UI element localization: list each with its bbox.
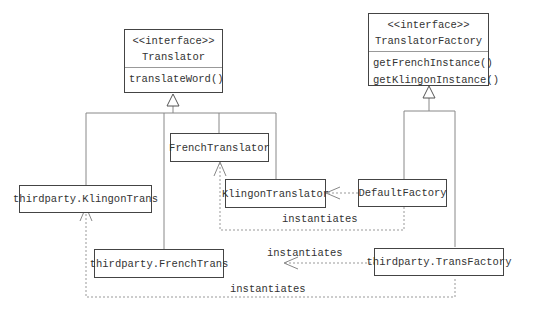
class-default-factory: DefaultFactory — [358, 179, 447, 207]
class-name: thirdparty.KlingonTrans — [13, 193, 158, 205]
label-trans-factory-instantiates-klingon: instantiates — [230, 283, 306, 295]
class-klingon-translator: KlingonTranslator — [225, 179, 326, 208]
operation: getKlingonInstance() — [373, 72, 484, 89]
stereotype-label: <<interface>> — [125, 33, 222, 49]
interface-name: TranslatorFactory — [369, 33, 488, 49]
class-name: thirdparty.FrenchTrans — [90, 258, 229, 270]
interface-header: <<interface>> TranslatorFactory — [369, 14, 488, 52]
class-name: DefaultFactory — [358, 187, 446, 199]
operations-compartment: translateWord() — [125, 68, 222, 91]
stereotype-label: <<interface>> — [369, 17, 488, 33]
operation: getFrenchInstance() — [373, 55, 484, 72]
class-name: KlingonTranslator — [222, 188, 329, 200]
realization-translator-factory — [404, 86, 455, 247]
interface-translator: <<interface>> Translator translateWord() — [124, 29, 223, 93]
class-name: FrenchTranslator — [169, 142, 270, 154]
interface-header: <<interface>> Translator — [125, 30, 222, 68]
class-thirdparty-french-trans: thirdparty.FrenchTrans — [94, 249, 224, 278]
realization-translator — [86, 94, 276, 258]
label-default-factory-instantiates: instantiates — [282, 213, 358, 225]
interface-translator-factory: <<interface>> TranslatorFactory getFrenc… — [368, 13, 489, 86]
class-french-translator: FrenchTranslator — [170, 133, 269, 162]
operations-compartment: getFrenchInstance() getKlingonInstance() — [369, 52, 488, 92]
class-thirdparty-klingon-trans: thirdparty.KlingonTrans — [19, 185, 152, 213]
operation: translateWord() — [129, 71, 218, 88]
class-name: thirdparty.TransFactory — [367, 256, 512, 268]
label-trans-factory-instantiates-french: instantiates — [267, 247, 343, 259]
class-thirdparty-trans-factory: thirdparty.TransFactory — [374, 248, 504, 276]
interface-name: Translator — [125, 49, 222, 65]
